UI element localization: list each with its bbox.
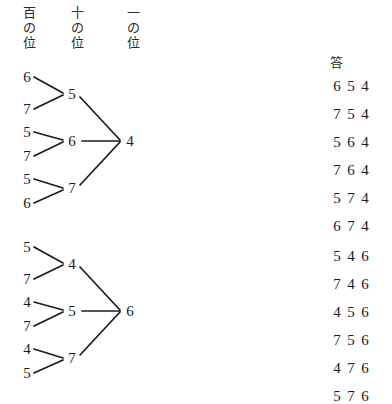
answer-digit: 4 [330, 360, 344, 376]
answer-row: 756 [330, 332, 372, 348]
answer-digit: 6 [344, 134, 358, 150]
answer-row: 546 [330, 248, 372, 264]
tree-2-ones-digit: 6 [124, 304, 136, 319]
answer-digit: 4 [358, 218, 372, 234]
tree-1-ones-digit: 4 [124, 134, 136, 149]
column-header-tens-char-2: の [68, 20, 86, 35]
answer-digit: 7 [344, 388, 358, 404]
tree-2-tens-digit-2: 5 [66, 304, 78, 319]
answer-digit: 4 [344, 276, 358, 292]
tree-1-tens-digit-2: 6 [66, 134, 78, 149]
tree-diagram-1: 6 7 5 7 5 6 5 6 7 4 [0, 62, 170, 207]
column-header-hundreds-char-2: の [20, 20, 38, 35]
tree-2-tens-digit-3: 7 [66, 351, 78, 366]
answer-digit: 6 [330, 78, 344, 94]
answer-digit: 4 [358, 190, 372, 206]
tree-1-hundreds-digit-4: 7 [21, 149, 33, 164]
answer-row: 674 [330, 218, 372, 234]
answer-digit: 5 [344, 78, 358, 94]
tree-diagram-2: 5 7 4 7 4 5 4 5 7 6 [0, 232, 170, 377]
column-header-hundreds: 百 の 位 [20, 5, 38, 50]
answer-digit: 4 [358, 106, 372, 122]
answer-digit: 4 [358, 78, 372, 94]
answer-digit: 4 [344, 248, 358, 264]
tree-2-tens-digit-1: 4 [66, 257, 78, 272]
column-header-ones-char-2: の [124, 20, 142, 35]
answer-digit: 6 [358, 248, 372, 264]
answer-digit: 4 [358, 162, 372, 178]
answer-digit: 6 [330, 218, 344, 234]
answer-digit: 5 [330, 134, 344, 150]
answer-digit: 6 [358, 304, 372, 320]
answer-digit: 7 [330, 106, 344, 122]
answer-digit: 7 [344, 360, 358, 376]
tree-2-hundreds-digit-4: 7 [21, 319, 33, 334]
answer-digit: 5 [330, 388, 344, 404]
column-header-tens-char-3: 位 [68, 35, 86, 50]
column-header-ones-char-1: 一 [124, 5, 142, 20]
tree-1-hundreds-digit-5: 5 [21, 172, 33, 187]
answer-digit: 5 [330, 190, 344, 206]
tree-2-hundreds-digit-3: 4 [21, 295, 33, 310]
answer-digit: 6 [358, 276, 372, 292]
tree-1-tens-digit-1: 5 [66, 87, 78, 102]
answer-digit: 7 [344, 190, 358, 206]
column-header-hundreds-char-1: 百 [20, 5, 38, 20]
answer-digit: 4 [358, 134, 372, 150]
answer-digit: 6 [358, 388, 372, 404]
answer-digit: 5 [344, 304, 358, 320]
answer-digit: 7 [330, 162, 344, 178]
tree-2-hundreds-digit-2: 7 [21, 272, 33, 287]
column-header-ones: 一 の 位 [124, 5, 142, 50]
answer-row: 456 [330, 304, 372, 320]
answer-digit: 6 [344, 162, 358, 178]
answer-row: 574 [330, 190, 372, 206]
column-header-tens: 十 の 位 [68, 5, 86, 50]
answer-row: 754 [330, 106, 372, 122]
answer-digit: 7 [344, 218, 358, 234]
column-header-ones-char-3: 位 [124, 35, 142, 50]
tree-2-hundreds-digit-5: 4 [21, 342, 33, 357]
answer-digit: 7 [330, 276, 344, 292]
answer-digit: 6 [358, 360, 372, 376]
answer-row: 576 [330, 388, 372, 404]
column-header-hundreds-char-3: 位 [20, 35, 38, 50]
answer-row: 476 [330, 360, 372, 376]
answer-digit: 5 [330, 248, 344, 264]
tree-1-tens-digit-3: 7 [66, 181, 78, 196]
answer-row: 654 [330, 78, 372, 94]
tree-1-hundreds-digit-2: 7 [21, 102, 33, 117]
tree-1-hundreds-digit-3: 5 [21, 125, 33, 140]
answer-digit: 7 [330, 332, 344, 348]
answer-digit: 5 [344, 106, 358, 122]
answer-digit: 5 [344, 332, 358, 348]
tree-1-hundreds-digit-6: 6 [21, 196, 33, 211]
answer-column-header: 答 [330, 55, 343, 70]
answer-digit: 6 [358, 332, 372, 348]
answer-row: 564 [330, 134, 372, 150]
answer-row: 746 [330, 276, 372, 292]
tree-2-hundreds-digit-6: 5 [21, 366, 33, 381]
tree-2-hundreds-digit-1: 5 [21, 240, 33, 255]
answer-digit: 4 [330, 304, 344, 320]
column-header-tens-char-1: 十 [68, 5, 86, 20]
answer-row: 764 [330, 162, 372, 178]
tree-1-hundreds-digit-1: 6 [21, 70, 33, 85]
